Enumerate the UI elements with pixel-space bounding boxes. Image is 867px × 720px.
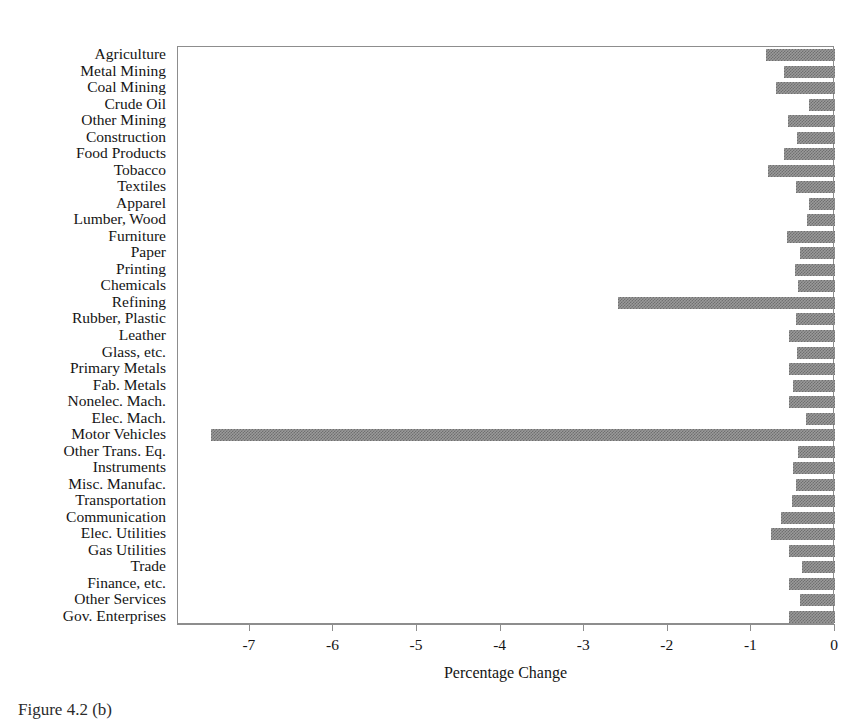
bar (792, 495, 835, 507)
x-axis-tick-label: -6 (307, 636, 357, 654)
bar (797, 347, 835, 359)
y-axis-label: Finance, etc. (0, 575, 166, 591)
y-axis-category-labels: AgricultureMetal MiningCoal MiningCrude … (0, 46, 170, 624)
y-axis-label: Gas Utilities (0, 542, 166, 558)
y-axis-label: Crude Oil (0, 96, 166, 112)
bar (800, 247, 835, 259)
y-axis-label: Agriculture (0, 46, 166, 62)
x-axis-tick (500, 624, 501, 631)
bar (789, 611, 835, 623)
y-axis-label: Lumber, Wood (0, 211, 166, 227)
bar (793, 380, 835, 392)
bar (806, 413, 835, 425)
y-axis-label: Transportation (0, 492, 166, 508)
x-axis-tick (332, 624, 333, 631)
x-axis-tick-label: -7 (224, 636, 274, 654)
bar (789, 545, 835, 557)
bar (766, 49, 835, 61)
bar (795, 264, 835, 276)
x-axis-tick-label: -1 (725, 636, 775, 654)
y-axis-label: Tobacco (0, 162, 166, 178)
x-axis-tick (667, 624, 668, 631)
y-axis-label: Printing (0, 261, 166, 277)
bar (798, 446, 835, 458)
x-axis-tick-label: -2 (642, 636, 692, 654)
y-axis-label: Paper (0, 244, 166, 260)
y-axis-label: Rubber, Plastic (0, 310, 166, 326)
y-axis-label: Glass, etc. (0, 344, 166, 360)
bar (788, 115, 835, 127)
y-axis-label: Textiles (0, 178, 166, 194)
y-axis-label: Other Trans. Eq. (0, 443, 166, 459)
y-axis-label: Refining (0, 294, 166, 310)
bar (797, 132, 835, 144)
bar (796, 313, 835, 325)
x-axis-tick (583, 624, 584, 631)
y-axis-label: Trade (0, 558, 166, 574)
plot-area (178, 47, 833, 623)
bar (789, 363, 835, 375)
y-axis-label: Primary Metals (0, 360, 166, 376)
x-axis-title: Percentage Change (177, 664, 834, 682)
y-axis-label: Nonelec. Mach. (0, 393, 166, 409)
y-axis-label: Chemicals (0, 277, 166, 293)
x-axis-tick (249, 624, 250, 631)
y-axis-label: Food Products (0, 145, 166, 161)
y-axis-label: Coal Mining (0, 79, 166, 95)
bar (809, 99, 835, 111)
bar (789, 330, 835, 342)
bar (793, 462, 835, 474)
figure-caption: Figure 4.2 (b) (18, 700, 112, 720)
y-axis-label: Elec. Utilities (0, 525, 166, 541)
bar (789, 578, 835, 590)
bar (776, 82, 835, 94)
x-axis-tick-label: -3 (558, 636, 608, 654)
y-axis-label: Other Services (0, 591, 166, 607)
bar (802, 561, 835, 573)
bar (784, 66, 835, 78)
bar (768, 165, 835, 177)
bar (800, 594, 835, 606)
bar (787, 231, 835, 243)
bar (781, 512, 835, 524)
y-axis-label: Metal Mining (0, 63, 166, 79)
y-axis-label: Construction (0, 129, 166, 145)
bar (796, 479, 835, 491)
y-axis-label: Communication (0, 509, 166, 525)
y-axis-label: Furniture (0, 228, 166, 244)
y-axis-label: Apparel (0, 195, 166, 211)
x-axis-tick (416, 624, 417, 631)
y-axis-label: Leather (0, 327, 166, 343)
bar (807, 214, 835, 226)
x-axis-tick (834, 624, 835, 631)
bar (784, 148, 835, 160)
y-axis-label: Elec. Mach. (0, 410, 166, 426)
bar (211, 429, 835, 441)
bar (789, 396, 835, 408)
y-axis-label: Fab. Metals (0, 377, 166, 393)
bar (798, 280, 835, 292)
bar (809, 198, 835, 210)
bar (618, 297, 835, 309)
x-axis-tick (750, 624, 751, 631)
x-axis-tick-label: -4 (475, 636, 525, 654)
plot-frame (177, 46, 834, 624)
bar (796, 181, 835, 193)
bar (771, 528, 835, 540)
x-axis-tick-label: -5 (391, 636, 441, 654)
x-axis-line (177, 624, 834, 625)
y-axis-label: Motor Vehicles (0, 426, 166, 442)
y-axis-label: Instruments (0, 459, 166, 475)
y-axis-label: Gov. Enterprises (0, 608, 166, 624)
y-axis-label: Misc. Manufac. (0, 476, 166, 492)
y-axis-label: Other Mining (0, 112, 166, 128)
x-axis-tick-label: 0 (809, 636, 859, 654)
